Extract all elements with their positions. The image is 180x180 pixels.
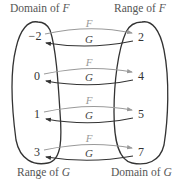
right-value-2: 4 (133, 70, 149, 82)
right-value-1: 2 (133, 31, 149, 43)
left-value-3: 1 (29, 108, 45, 120)
right-value-3: 5 (133, 108, 149, 120)
g-label-row1: G (83, 34, 95, 45)
left-value-1: −2 (27, 30, 43, 42)
domain-of-g-label: Domain of G (111, 167, 172, 179)
f-label-row3: F (83, 95, 95, 106)
g-label-row4: G (83, 148, 95, 159)
range-of-g-label: Range of G (17, 167, 70, 179)
range-of-g-var: G (62, 166, 70, 178)
left-value-4: 3 (29, 146, 45, 158)
f-label-row4: F (83, 133, 95, 144)
domain-of-g-var: G (163, 166, 171, 178)
domain-of-f-text: Domain of (10, 2, 62, 14)
left-set-outline (12, 22, 61, 164)
range-of-f-label: Range of F (114, 3, 166, 15)
left-value-2: 0 (29, 70, 45, 82)
f-label-row2: F (83, 57, 95, 68)
domain-of-f-label: Domain of F (10, 3, 69, 15)
inverse-function-mapping-diagram: Domain of F Range of F Range of G Domain… (0, 0, 180, 180)
right-value-4: 7 (133, 146, 149, 158)
domain-of-g-text: Domain of (111, 166, 163, 178)
range-of-f-text: Range of (114, 2, 159, 14)
range-of-f-var: F (159, 2, 166, 14)
domain-of-f-var: F (62, 2, 69, 14)
g-label-row3: G (83, 110, 95, 121)
range-of-g-text: Range of (17, 166, 62, 178)
g-label-row2: G (83, 72, 95, 83)
f-label-row1: F (83, 18, 95, 29)
